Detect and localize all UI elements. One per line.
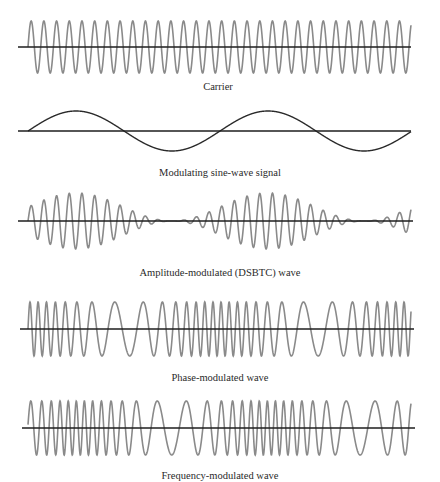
- fm-panel: [22, 401, 415, 455]
- modulating-panel: [18, 111, 411, 151]
- pm-caption: Phase-modulated wave: [0, 372, 440, 384]
- pm-panel: [20, 302, 414, 356]
- carrier-caption: Carrier: [0, 81, 438, 93]
- am-caption: Amplitude-modulated (DSBTC) wave: [0, 267, 440, 279]
- am-panel: [18, 193, 413, 249]
- modulating-caption: Modulating sine-wave signal: [0, 167, 440, 179]
- fm-caption: Frequency-modulated wave: [0, 470, 440, 482]
- carrier-panel: [18, 21, 411, 73]
